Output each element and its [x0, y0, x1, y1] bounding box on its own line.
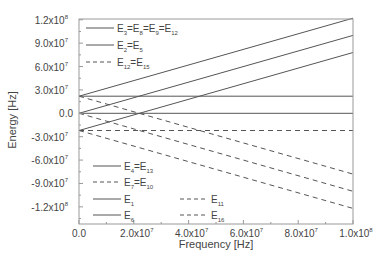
legend-label: E1: [124, 194, 135, 207]
legend-label: E2=E5: [117, 40, 144, 53]
legend-label: E6: [124, 210, 135, 223]
chart: 0.02.0x1074.0x1076.0x1078.0x1071.0x1081.…: [0, 0, 392, 272]
axis-ticks: 0.02.0x1074.0x1076.0x1078.0x1071.0x1081.…: [31, 14, 373, 239]
y-tick-label: -1.2x108: [31, 201, 68, 213]
y-tick-label: 6.0x107: [35, 61, 69, 73]
series-e7-e10: [79, 113, 353, 191]
legend-label: E3=E8=E9=E12: [117, 23, 179, 36]
legend-label: E11: [211, 194, 225, 207]
x-axis-label: Frequency [Hz]: [179, 238, 254, 250]
legend-label: E12=E15: [117, 57, 150, 70]
y-tick-label: -6.0x107: [31, 154, 68, 166]
y-tick-label: 1.2x108: [35, 14, 69, 26]
x-tick-label: 2.0x107: [120, 227, 154, 239]
y-tick-label: 9.0x107: [35, 37, 69, 49]
legend-label: E16: [211, 210, 225, 223]
y-tick-label: 0.0: [59, 108, 73, 119]
x-tick-label: 1.0x108: [339, 227, 373, 239]
y-tick-label: -9.0x107: [31, 177, 68, 189]
y-axis-label: Energy [Hz]: [6, 91, 18, 148]
x-tick-label: 8.0x107: [285, 227, 319, 239]
series-e11: [79, 96, 353, 174]
y-tick-label: 3.0x107: [35, 84, 69, 96]
y-tick-label: -3.0x107: [31, 131, 68, 143]
legend-label: E4=E13: [124, 161, 154, 174]
legend-label: E7=E10: [124, 177, 154, 190]
x-tick-label: 0.0: [72, 228, 86, 239]
